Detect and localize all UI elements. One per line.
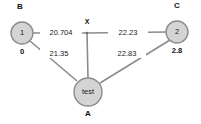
node-inner-text-a: test xyxy=(70,87,106,96)
node-inner-text-b: 1 xyxy=(8,28,36,37)
edge-line-x-to-a xyxy=(87,33,88,78)
node-inner-text-c: 2 xyxy=(163,27,191,36)
edge-weight-x-to-c: 22.23 xyxy=(108,28,148,37)
node-value-label-c: 2.8 xyxy=(163,46,191,55)
edge-weight-a-to-c: 22.83 xyxy=(108,49,146,58)
junction-label-x: X xyxy=(80,18,94,26)
edge-weight-b-to-a: 21.35 xyxy=(40,49,78,58)
node-name-label-b: B xyxy=(6,2,34,12)
graph-edges-layer xyxy=(0,0,201,124)
node-value-label-b: 0 xyxy=(8,47,36,56)
edge-line-b-to-a xyxy=(30,41,77,81)
edge-line-a-to-c xyxy=(100,40,170,83)
graph-diagram-canvas: B 1 0 C 2 2.8 test A X 20.704 22.23 21.3… xyxy=(0,0,201,124)
node-name-label-a: A xyxy=(74,109,102,119)
edge-weight-b-to-x: 20.704 xyxy=(40,28,82,37)
junction-dot-x xyxy=(86,32,89,35)
node-name-label-c: C xyxy=(163,1,191,11)
